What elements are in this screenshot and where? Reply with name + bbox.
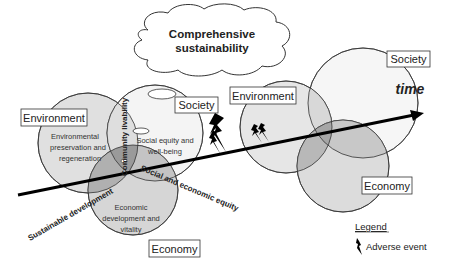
svg-text:Environment: Environment <box>232 90 294 102</box>
time-axis-label: time <box>396 81 425 97</box>
eco-inner-line1: Economic <box>115 203 148 212</box>
lightning-bolt-icon <box>356 238 362 255</box>
title-line1: Comprehensive <box>169 28 255 40</box>
legend: Legend Adverse event <box>355 221 427 255</box>
eco-inner-line2: development and <box>102 214 160 223</box>
left-society-label-box: Society <box>175 97 218 113</box>
right-economy-label-box: Economy <box>362 177 412 194</box>
env-inner-line3: regeneration <box>59 154 101 163</box>
community-livability-label: Community livability <box>120 97 129 176</box>
soc-inner-line1: Social equity and <box>136 136 193 145</box>
left-environment-label-box: Environment <box>21 109 87 126</box>
legend-item-adverse-event: Adverse event <box>366 241 427 252</box>
svg-text:Economy: Economy <box>364 180 410 192</box>
title-line2: sustainability <box>175 42 249 54</box>
soc-inner-line2: well-being <box>147 147 182 156</box>
legend-title: Legend <box>355 221 387 232</box>
left-economy-label-box: Economy <box>149 240 200 257</box>
diagram-canvas: Comprehensive sustainability Environment… <box>0 0 454 268</box>
right-society-label-box: Society <box>387 51 430 67</box>
svg-text:Society: Society <box>178 99 215 111</box>
right-environment-label-box: Environment <box>230 87 296 104</box>
svg-text:Environment: Environment <box>23 112 85 124</box>
lightning-bolt-icon <box>209 113 226 152</box>
society-top-ellipse <box>148 89 176 99</box>
eco-inner-line3: vitality <box>121 225 142 234</box>
lightning-bolt-icon <box>209 130 221 155</box>
svg-text:Society: Society <box>390 53 427 65</box>
svg-text:Economy: Economy <box>152 243 198 255</box>
env-inner-line1: Environmental <box>51 132 99 141</box>
env-inner-line2: preservation and <box>50 143 106 152</box>
society-inner-ellipse <box>133 128 149 134</box>
